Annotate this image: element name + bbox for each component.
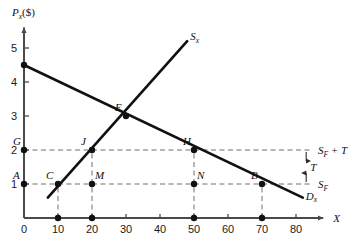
y-tick-label-5: 5: [11, 42, 17, 54]
point-dot-c: [55, 181, 61, 187]
axis-dot-70: [259, 215, 265, 221]
point-dot-g: [21, 147, 27, 153]
point-label-g: G: [13, 135, 21, 147]
y-tick-label-3: 3: [11, 110, 17, 122]
point-label-e: E: [114, 101, 122, 113]
axis-dot-50: [191, 215, 197, 221]
point-dot-e: [123, 113, 129, 119]
curve-sx: [48, 41, 187, 197]
point-dot-j: [89, 147, 95, 153]
tax-label: T: [310, 161, 317, 173]
x-tick-label-0: 0: [21, 223, 27, 235]
curve-label-sx: Sx: [190, 30, 200, 45]
point-dot-demand-intercept: [21, 62, 27, 68]
price-line-label-sf-plus-t: SF + T: [318, 144, 348, 159]
x-tick-label-50: 50: [188, 223, 200, 235]
point-label-b: B: [251, 169, 258, 181]
x-tick-label-10: 10: [52, 223, 64, 235]
point-label-a: A: [12, 169, 20, 181]
point-dot-b: [259, 181, 265, 187]
x-tick-label-80: 80: [290, 223, 302, 235]
x-tick-label-30: 30: [120, 223, 132, 235]
axis-dot-20: [89, 215, 95, 221]
point-dot-a: [21, 181, 27, 187]
x-tick-label-70: 70: [256, 223, 268, 235]
axis-dot-10: [55, 215, 61, 221]
supply-demand-chart: SF + TSF0102030405060708012345SxDxGACJME…: [0, 0, 363, 247]
price-line-label-sf: SF: [318, 178, 329, 193]
point-label-c: C: [46, 169, 54, 181]
x-tick-label-60: 60: [222, 223, 234, 235]
y-tick-label-4: 4: [11, 76, 17, 88]
chart-canvas: SF + TSF0102030405060708012345SxDxGACJME…: [0, 0, 363, 247]
point-dot-h: [191, 147, 197, 153]
point-dot-m: [89, 181, 95, 187]
curve-label-dx: Dx: [305, 190, 318, 205]
x-tick-label-40: 40: [154, 223, 166, 235]
x-axis-title: X: [332, 212, 341, 224]
y-axis-title: Px($): [11, 6, 35, 21]
point-dot-n: [191, 181, 197, 187]
point-label-n: N: [196, 169, 205, 181]
point-label-m: M: [94, 169, 105, 181]
x-tick-label-20: 20: [86, 223, 98, 235]
point-label-j: J: [81, 135, 87, 147]
point-label-h: H: [182, 135, 192, 147]
